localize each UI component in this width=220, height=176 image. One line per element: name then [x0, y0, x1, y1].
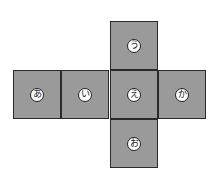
label-badge: え: [127, 88, 141, 102]
face-ka: か: [158, 70, 206, 119]
label-badge: か: [175, 88, 189, 102]
cube-net-diagram: う あ い え か お: [0, 0, 220, 176]
face-i: い: [61, 70, 109, 119]
label-badge: あ: [30, 88, 44, 102]
label-badge: お: [127, 137, 141, 151]
face-e: え: [110, 70, 158, 119]
face-u: う: [110, 21, 158, 70]
label-badge: い: [78, 88, 92, 102]
face-a: あ: [13, 70, 61, 119]
label-badge: う: [127, 39, 141, 53]
face-o: お: [110, 119, 158, 168]
